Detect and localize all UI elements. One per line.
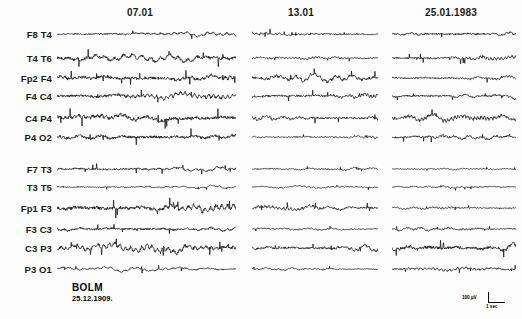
eeg-trace-fp2-f4-col3 bbox=[392, 71, 516, 85]
eeg-trace-c3-p3-col2 bbox=[252, 239, 378, 257]
calibration-amplitude-label: 100 µV bbox=[462, 295, 477, 300]
eeg-trace-t3-t5-col3 bbox=[392, 182, 516, 193]
eeg-trace-f8-t4-col2 bbox=[252, 28, 378, 41]
eeg-trace-c4-p4-col3 bbox=[392, 107, 516, 129]
patient-name: BOLM bbox=[72, 283, 113, 294]
eeg-trace-f3-c3-col3 bbox=[392, 223, 516, 236]
column-header-epoch-3: 25.01.1983 bbox=[425, 7, 477, 18]
channel-label-f4-c4: F4 C4 bbox=[0, 91, 52, 102]
eeg-trace-t4-t6-col3 bbox=[392, 50, 516, 66]
channel-label-fp1-f3: Fp1 F3 bbox=[0, 203, 52, 214]
eeg-trace-t3-t5-col2 bbox=[252, 182, 378, 192]
eeg-trace-p3-o1-col3 bbox=[392, 262, 516, 276]
channel-label-f8-t4: F8 T4 bbox=[0, 29, 52, 40]
eeg-trace-f7-t3-col2 bbox=[252, 164, 378, 175]
channel-label-t3-t5: T3 T5 bbox=[0, 182, 52, 193]
eeg-trace-fp2-f4-col2 bbox=[252, 68, 378, 88]
channel-label-t4-t6: T4 T6 bbox=[0, 53, 52, 64]
eeg-trace-p3-o1-col1 bbox=[57, 263, 236, 276]
column-header-epoch-1: 07.01 bbox=[127, 7, 153, 18]
channel-label-p3-o1: P3 O1 bbox=[0, 264, 52, 275]
eeg-trace-t3-t5-col1 bbox=[57, 182, 236, 193]
eeg-trace-f4-c4-col1 bbox=[57, 86, 236, 106]
eeg-trace-f3-c3-col1 bbox=[57, 221, 236, 238]
channel-label-p4-o2: P4 O2 bbox=[0, 132, 52, 143]
eeg-trace-fp1-f3-col2 bbox=[252, 200, 378, 217]
eeg-trace-p4-o2-col2 bbox=[252, 131, 378, 143]
eeg-trace-f4-c4-col3 bbox=[392, 89, 516, 104]
eeg-trace-f7-t3-col3 bbox=[392, 164, 516, 174]
eeg-trace-f8-t4-col1 bbox=[57, 27, 236, 42]
channel-label-f3-c3: F3 C3 bbox=[0, 224, 52, 235]
channel-label-fp2-f4: Fp2 F4 bbox=[0, 73, 52, 84]
eeg-trace-f3-c3-col2 bbox=[252, 224, 378, 235]
channel-label-f7-t3: F7 T3 bbox=[0, 164, 52, 175]
eeg-trace-c3-p3-col1 bbox=[57, 237, 236, 260]
eeg-chart-page: 07.01 13.01 25.01.1983 F8 T4T4 T6Fp2 F4F… bbox=[0, 0, 522, 319]
eeg-trace-f4-c4-col2 bbox=[252, 87, 378, 105]
eeg-trace-c3-p3-col3 bbox=[392, 236, 516, 260]
eeg-trace-t4-t6-col2 bbox=[252, 52, 378, 64]
eeg-trace-p4-o2-col1 bbox=[57, 127, 236, 148]
eeg-trace-f8-t4-col3 bbox=[392, 26, 516, 42]
patient-info: BOLM 25.12.1909. bbox=[72, 283, 113, 302]
calibration-horizontal-bar bbox=[488, 302, 505, 303]
channel-label-c3-p3: C3 P3 bbox=[0, 243, 52, 254]
eeg-trace-fp1-f3-col1 bbox=[57, 196, 236, 220]
eeg-trace-p4-o2-col3 bbox=[392, 129, 516, 145]
eeg-trace-p3-o1-col2 bbox=[252, 264, 378, 275]
patient-birth-date: 25.12.1909. bbox=[72, 295, 113, 303]
calibration-duration-label: 1 sec bbox=[486, 304, 498, 309]
channel-label-c4-p4: C4 P4 bbox=[0, 113, 52, 124]
column-header-epoch-2: 13.01 bbox=[288, 7, 314, 18]
eeg-trace-c4-p4-col2 bbox=[252, 110, 378, 126]
eeg-trace-fp1-f3-col3 bbox=[392, 202, 516, 214]
eeg-trace-f7-t3-col1 bbox=[57, 161, 236, 177]
